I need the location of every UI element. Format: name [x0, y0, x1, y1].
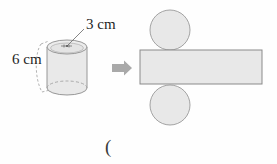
diagram-canvas: 3 cm 6 cm ( [0, 0, 277, 164]
cylinder-net-figure [0, 0, 277, 164]
net-bottom-circle [150, 85, 190, 125]
radius-label: 3 cm [86, 17, 116, 32]
height-label: 6 cm [12, 52, 42, 67]
net-top-circle [150, 10, 190, 50]
open-paren-mark: ( [105, 136, 111, 158]
net-lateral-rectangle [140, 50, 262, 84]
